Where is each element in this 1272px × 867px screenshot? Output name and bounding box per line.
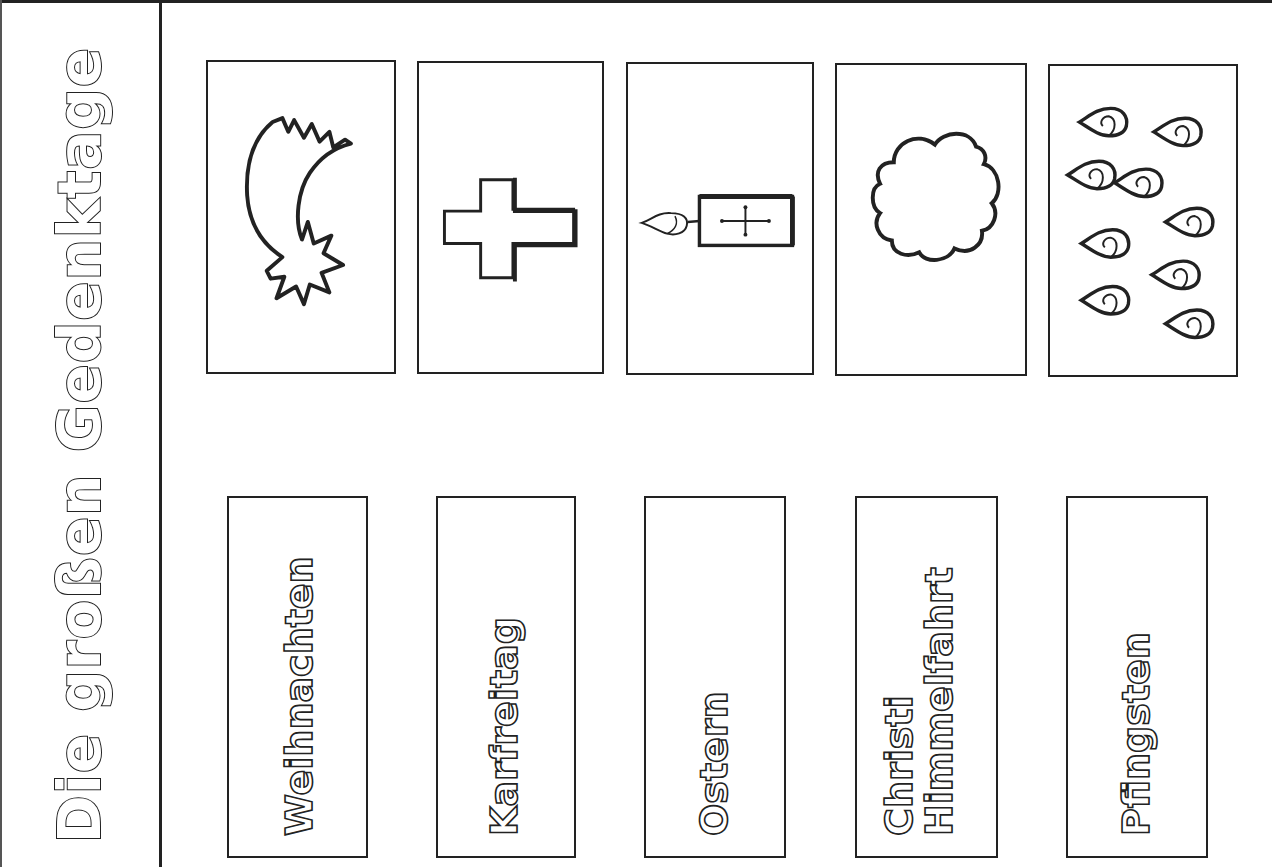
cloud-icon	[837, 65, 1025, 374]
label-card-karfreitag[interactable]: Karfreitag	[436, 496, 576, 858]
title-column: Die großen Gedenktage	[0, 0, 159, 867]
worksheet-title: Die großen Gedenktage	[46, 47, 114, 843]
label-card-ostern[interactable]: Ostern	[644, 496, 786, 858]
label-card-pfingsten[interactable]: Pfingsten	[1066, 496, 1208, 858]
picture-card-karfreitag[interactable]	[417, 61, 604, 374]
picture-card-weihnachten[interactable]	[206, 60, 396, 374]
flames-icon	[1050, 66, 1236, 375]
label-card-weihnachten[interactable]: Weihnachten	[227, 496, 368, 858]
picture-card-ostern[interactable]	[626, 62, 814, 375]
easter-candle-icon	[628, 64, 812, 373]
picture-card-himmelfahrt[interactable]	[835, 63, 1027, 376]
label-card-christi-himmelfahrt[interactable]: Christi Himmelfahrt	[855, 496, 998, 858]
shooting-star-icon	[208, 62, 394, 372]
label-text: Karfreitag	[484, 617, 524, 836]
label-text-line-1: Christi	[879, 567, 919, 836]
label-text: Pfingsten	[1116, 632, 1156, 836]
cross-icon	[419, 63, 602, 372]
label-text: Ostern	[694, 691, 734, 836]
picture-card-pfingsten[interactable]	[1048, 64, 1238, 377]
label-text-line-2: Himmelfahrt	[919, 567, 959, 836]
page-top-border	[0, 0, 1272, 3]
title-divider	[159, 0, 162, 867]
label-text: Weihnachten	[279, 556, 319, 836]
